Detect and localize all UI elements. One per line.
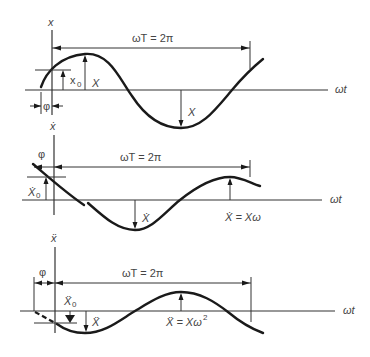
phase-arrow-left-head-3 [35, 281, 42, 286]
velocity-peak-label: Ẋ = Xω [224, 211, 261, 223]
panel-velocity: ẋ ωt ωT = 2π φ Ẋ 0 Ẋ Ẋ = Xω [22, 120, 343, 230]
period-arrow-right-head-3 [242, 281, 250, 286]
xdot0-label: Ẋ [27, 186, 36, 198]
amplitude-arrow-head [83, 55, 88, 62]
phase-label-2: φ [38, 148, 45, 160]
x-axis-label: x [47, 16, 54, 28]
velocity-trough-arrow-head [133, 222, 138, 229]
panel-acceleration: ẍ ωt ωT = 2π φ Ẍ 0 Ẍ Ẍ = Xω 2 [20, 232, 356, 333]
acceleration-peak-arrow-head [179, 293, 184, 300]
phase-arrow-right-head [52, 104, 59, 109]
acceleration-trough-arrow-head [84, 325, 89, 332]
acceleration-curve-dashed [35, 312, 57, 324]
xddot0-subscript: 0 [72, 300, 77, 309]
trough-amplitude-label: X [187, 106, 196, 118]
wt-axis-label-3: ωt [343, 304, 356, 316]
wt-axis-label: ωt [335, 83, 348, 95]
phase-label: φ [43, 100, 50, 112]
phase-arrow-left-head [34, 104, 41, 109]
acceleration-curve [57, 292, 263, 333]
acceleration-amplitude-label: Ẍ [91, 316, 100, 328]
phase-label-3: φ [39, 266, 46, 278]
period-arrow-left-head-2 [54, 165, 62, 170]
xddot0-arrow-head [65, 315, 75, 323]
trough-arrow-head [179, 120, 184, 127]
xddot-axis-label: ẍ [50, 232, 57, 244]
period-arrow-right-head [241, 46, 249, 51]
phase-arrow-right-head-3 [47, 281, 54, 286]
wt-axis-label-2: ωt [330, 193, 343, 205]
acceleration-peak-superscript: 2 [203, 313, 208, 322]
xdot-axis-label: ẋ [49, 120, 56, 132]
amplitude-label: X [91, 77, 100, 89]
period-label-3: ωT = 2π [122, 267, 164, 279]
period-arrow-left-head [53, 46, 61, 51]
xddot0-label: Ẍ [63, 295, 72, 307]
xdot0-subscript: 0 [36, 191, 41, 200]
acceleration-peak-label: Ẍ = Xω [165, 316, 202, 328]
panel-displacement: x ωt ωT = 2π x 0 X X φ [25, 16, 348, 128]
velocity-amplitude-label: Ẋ [141, 212, 150, 224]
harmonic-motion-diagram: x ωt ωT = 2π x 0 X X φ ẋ [0, 0, 370, 357]
period-label: ωT = 2π [132, 32, 174, 44]
period-arrow-right-head-2 [241, 165, 249, 170]
velocity-peak-arrow-head [228, 178, 233, 185]
x0-label: x [70, 74, 76, 86]
period-arrow-left-head-3 [55, 281, 63, 286]
x0-subscript: 0 [77, 80, 82, 89]
velocity-curve [33, 164, 84, 205]
displacement-curve [41, 54, 263, 128]
x0-arrow-head [61, 70, 66, 77]
period-label-2: ωT = 2π [120, 151, 162, 163]
